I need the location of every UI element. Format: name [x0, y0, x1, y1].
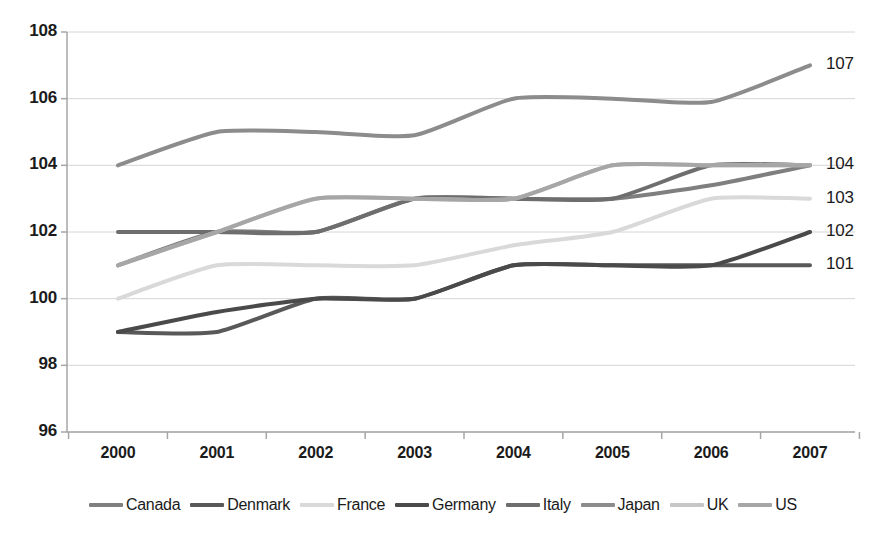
- data-series-lines: [118, 65, 810, 333]
- legend-item-label: Italy: [543, 496, 571, 514]
- legend-item-label: Canada: [126, 496, 180, 514]
- x-axis-tick-label: 2002: [281, 444, 351, 462]
- x-axis-tick-label: 2005: [577, 444, 647, 462]
- y-axis-tick-label: 98: [5, 354, 57, 374]
- legend-item-japan[interactable]: Japan: [581, 496, 660, 514]
- series-end-value-label: 104: [826, 154, 878, 174]
- legend-item-label: US: [775, 496, 797, 514]
- x-axis-tick-label: 2000: [83, 444, 153, 462]
- series-end-value-label: 103: [826, 188, 878, 208]
- legend-swatch-icon: [89, 503, 123, 507]
- series-line-canada: [118, 165, 810, 265]
- x-axis-ticks: [69, 432, 860, 439]
- legend-item-canada[interactable]: Canada: [89, 496, 180, 514]
- legend-swatch-icon: [190, 503, 224, 507]
- legend-item-label: Japan: [618, 496, 660, 514]
- y-axis-tick-label: 102: [5, 221, 57, 241]
- x-axis-tick-label: 2004: [478, 444, 548, 462]
- series-end-value-label: 101: [826, 254, 878, 274]
- legend-item-label: France: [337, 496, 385, 514]
- x-axis-tick-label: 2001: [182, 444, 252, 462]
- legend-item-label: UK: [707, 496, 729, 514]
- legend-item-label: Denmark: [227, 496, 290, 514]
- series-line-uk: [118, 164, 810, 265]
- legend-swatch-icon: [395, 503, 429, 507]
- series-line-germany: [118, 232, 810, 332]
- y-axis-tick-label: 96: [5, 421, 57, 441]
- x-axis-tick-label: 2003: [380, 444, 450, 462]
- line-chart: 1081061041021009896 20002001200220032004…: [0, 0, 886, 539]
- series-end-value-label: 107: [826, 54, 878, 74]
- series-end-value-label: 102: [826, 221, 878, 241]
- legend-swatch-icon: [581, 503, 615, 507]
- y-axis-tick-label: 108: [5, 21, 57, 41]
- legend-item-denmark[interactable]: Denmark: [190, 496, 290, 514]
- legend-item-label: Germany: [432, 496, 496, 514]
- legend-item-germany[interactable]: Germany: [395, 496, 496, 514]
- legend-swatch-icon: [670, 503, 704, 507]
- legend-swatch-icon: [300, 503, 334, 507]
- series-line-us: [118, 164, 810, 265]
- y-axis-tick-label: 100: [5, 288, 57, 308]
- y-axis-ticks: [61, 32, 67, 432]
- y-axis-tick-label: 104: [5, 154, 57, 174]
- legend-swatch-icon: [506, 503, 540, 507]
- legend-swatch-icon: [738, 503, 772, 507]
- x-axis-tick-label: 2007: [775, 444, 845, 462]
- series-line-japan: [118, 65, 810, 165]
- y-axis-tick-label: 106: [5, 88, 57, 108]
- chart-legend: CanadaDenmarkFranceGermanyItalyJapanUKUS: [0, 492, 886, 518]
- legend-item-uk[interactable]: UK: [670, 496, 729, 514]
- legend-item-france[interactable]: France: [300, 496, 385, 514]
- legend-item-us[interactable]: US: [738, 496, 797, 514]
- legend-item-italy[interactable]: Italy: [506, 496, 571, 514]
- x-axis-tick-label: 2006: [676, 444, 746, 462]
